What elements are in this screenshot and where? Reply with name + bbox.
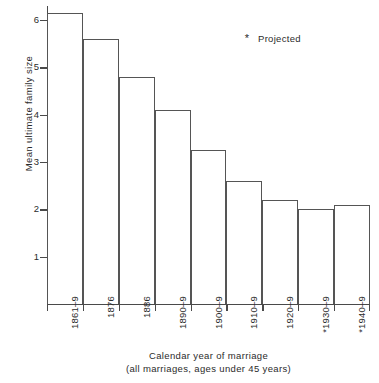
y-tick-label-4: 4 xyxy=(23,110,39,119)
x-tick-label-1: 1876 xyxy=(105,296,116,352)
chart-container: Mean ultimate family size 123456 1861–91… xyxy=(0,0,379,383)
y-tick-label-1: 1 xyxy=(23,252,39,261)
y-tick-1 xyxy=(40,257,47,258)
bar-19009 xyxy=(191,150,227,304)
bar-1886 xyxy=(119,77,155,304)
bar-19209 xyxy=(262,200,298,304)
y-tick-3 xyxy=(40,162,47,163)
x-tick-label-5: 1910–9 xyxy=(248,296,259,352)
legend-label-projected: Projected xyxy=(258,33,301,44)
bar-18909 xyxy=(155,110,191,304)
plot-area: 123456 xyxy=(47,6,370,305)
x-tick-label-4: 1900–9 xyxy=(213,296,224,352)
y-tick-label-2: 2 xyxy=(23,204,39,213)
x-tick-label-8: *1940–9 xyxy=(356,296,367,352)
y-tick-5 xyxy=(40,67,47,68)
y-tick-label-3: 3 xyxy=(23,157,39,166)
x-tick-label-6: 1920–9 xyxy=(284,296,295,352)
asterisk-icon: * xyxy=(243,34,251,43)
x-axis-tick-labels: 1861–9187618861890–91900–91910–91920–9*1… xyxy=(47,306,370,354)
bar-19309 xyxy=(298,209,334,304)
x-tick-label-0: 1861–9 xyxy=(69,296,80,352)
y-tick-6 xyxy=(40,20,47,21)
y-tick-label-6: 6 xyxy=(23,15,39,24)
y-tick-label-5: 5 xyxy=(23,62,39,71)
bar-series xyxy=(47,6,370,304)
y-tick-2 xyxy=(40,209,47,210)
bar-19409 xyxy=(334,205,370,304)
x-axis-caption: Calendar year of marriage (all marriages… xyxy=(47,350,370,375)
bar-19109 xyxy=(226,181,262,304)
x-tick-label-3: 1890–9 xyxy=(177,296,188,352)
x-tick-label-2: 1886 xyxy=(141,296,152,352)
bar-18619 xyxy=(47,13,83,304)
legend: * Projected xyxy=(243,33,301,44)
y-tick-4 xyxy=(40,115,47,116)
bar-1876 xyxy=(83,39,119,304)
caption-line-1: Calendar year of marriage xyxy=(47,350,370,363)
caption-line-2: (all marriages, ages under 45 years) xyxy=(47,363,370,376)
x-tick-label-7: *1930–9 xyxy=(320,296,331,352)
